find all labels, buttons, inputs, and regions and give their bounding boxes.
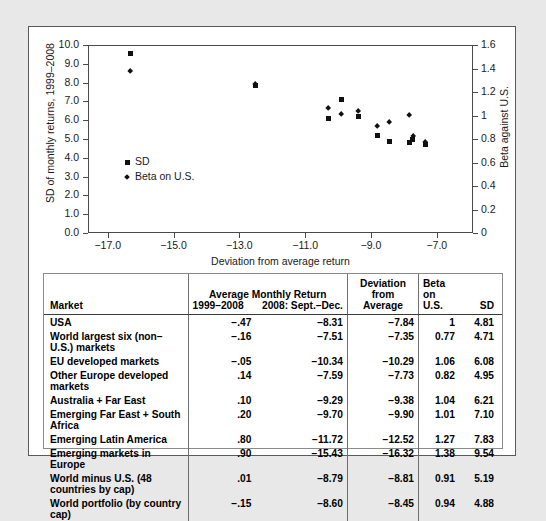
x-tick: [239, 233, 240, 238]
table-row: World minus U.S. (48 countries by cap).0…: [44, 471, 502, 496]
y-left-tick-label: 7.0: [29, 94, 79, 106]
deviation-line1: Deviation: [352, 278, 414, 289]
data-point-sd: [387, 139, 392, 144]
cell-sd: 7.10: [459, 407, 502, 432]
avg-group-title: Average Monthly Return: [193, 289, 343, 300]
cell-avg2: −9.29: [255, 393, 347, 407]
y-right-tick-label: 1.4: [481, 62, 521, 74]
cell-dev: −10.29: [347, 354, 418, 368]
y-right-tick-label: 0.8: [481, 132, 521, 144]
y-left-tick-label: 8.0: [29, 76, 79, 88]
y-right-tick: [473, 210, 478, 211]
cell-sd: 6.08: [459, 354, 502, 368]
beta-line2: U.S.: [423, 300, 455, 311]
x-tick: [305, 233, 306, 238]
y-left-tick-label: 4.0: [29, 151, 79, 163]
plot-frame-bottom: [88, 232, 473, 233]
y-right-tick: [473, 233, 478, 234]
table-row: Emerging Latin America.80−11.72−12.521.2…: [44, 432, 502, 446]
cell-market: EU developed markets: [44, 354, 188, 368]
cell-beta: 0.94: [418, 496, 458, 521]
y-left-tick: [83, 195, 88, 196]
y-left-tick: [83, 83, 88, 84]
y-right-tick-label: 1: [481, 109, 521, 121]
cell-sd: 5.19: [459, 471, 502, 496]
cell-market: Australia + Far East: [44, 393, 188, 407]
y-left-tick-label: 2.0: [29, 188, 79, 200]
table-row: Emerging markets in Europe.90−15.43−16.3…: [44, 446, 502, 471]
cell-dev: −9.90: [347, 407, 418, 432]
cell-sd: 4.81: [459, 315, 502, 330]
data-point-beta: [386, 119, 392, 125]
table-row: World largest six (non–U.S.) markets−.16…: [44, 329, 502, 354]
beta-line1: Beta on: [423, 278, 455, 300]
cell-sd: 4.71: [459, 329, 502, 354]
y-left-tick: [83, 101, 88, 102]
scatter-chart: SD of monthly returns, 1999–2008 Beta ag…: [29, 27, 517, 259]
y-left-tick: [83, 45, 88, 46]
y-left-tick-label: 6.0: [29, 113, 79, 125]
x-tick: [437, 233, 438, 238]
avg-sub-2008-sept-dec: 2008: Sept.–Dec.: [262, 300, 343, 311]
plot-frame-top: [88, 45, 473, 46]
square-marker-icon: [125, 160, 130, 165]
y-right-tick: [473, 116, 478, 117]
cell-market: Emerging markets in Europe: [44, 446, 188, 471]
y-right-tick: [473, 139, 478, 140]
cell-market: World portfolio (by country cap): [44, 496, 188, 521]
cell-avg2: −8.60: [255, 496, 347, 521]
cell-avg2: −8.79: [255, 471, 347, 496]
data-point-sd: [339, 97, 344, 102]
cell-avg1: −.47: [188, 315, 255, 330]
cell-dev: −12.52: [347, 432, 418, 446]
column-header-beta-on-us: Beta on U.S.: [418, 274, 458, 315]
cell-market: World minus U.S. (48 countries by cap): [44, 471, 188, 496]
y-right-tick-label: 0.4: [481, 179, 521, 191]
cell-market: Other Europe developed markets: [44, 368, 188, 393]
cell-beta: 1.01: [418, 407, 458, 432]
figure-panel: SD of monthly returns, 1999–2008 Beta ag…: [28, 26, 516, 456]
cell-beta: 0.82: [418, 368, 458, 393]
cell-avg1: .14: [188, 368, 255, 393]
data-point-sd: [326, 116, 331, 121]
data-point-sd: [375, 133, 380, 138]
column-header-average-monthly-return: Average Monthly Return 1999–2008 2008: S…: [188, 274, 347, 315]
y-right-tick: [473, 69, 478, 70]
legend-label-beta: Beta on U.S.: [135, 170, 195, 182]
x-tick: [174, 233, 175, 238]
cell-avg1: .01: [188, 471, 255, 496]
y-right-tick: [473, 163, 478, 164]
cell-beta: 1.04: [418, 393, 458, 407]
cell-market: World largest six (non–U.S.) markets: [44, 329, 188, 354]
y-left-tick-label: 3.0: [29, 170, 79, 182]
y-right-tick-label: 0.6: [481, 156, 521, 168]
y-left-tick: [83, 177, 88, 178]
cell-avg2: −10.34: [255, 354, 347, 368]
cell-dev: −7.84: [347, 315, 418, 330]
cell-beta: 1.06: [418, 354, 458, 368]
market-statistics-table: Market Average Monthly Return 1999–2008 …: [43, 273, 503, 449]
cell-dev: −7.73: [347, 368, 418, 393]
x-axis-title: Deviation from average return: [88, 255, 473, 267]
data-point-beta: [406, 112, 412, 118]
y-left-tick: [83, 64, 88, 65]
cell-avg1: .90: [188, 446, 255, 471]
cell-beta: 1: [418, 315, 458, 330]
y-left-tick-label: 1.0: [29, 207, 79, 219]
x-tick-label: −17.0: [83, 239, 133, 251]
x-tick-label: −9.0: [346, 239, 396, 251]
y-left-tick: [83, 139, 88, 140]
x-tick-label: −11.0: [280, 239, 330, 251]
cell-avg2: −15.43: [255, 446, 347, 471]
table-body: USA−.47−8.31−7.8414.81World largest six …: [44, 315, 502, 521]
y-right-tick-label: 0.2: [481, 203, 521, 215]
x-tick-label: −15.0: [149, 239, 199, 251]
cell-avg2: −7.59: [255, 368, 347, 393]
cell-market: USA: [44, 315, 188, 330]
data-point-sd: [128, 51, 133, 56]
cell-dev: −8.81: [347, 471, 418, 496]
data-point-beta: [127, 68, 133, 74]
data-point-beta: [325, 105, 331, 111]
cell-avg2: −8.31: [255, 315, 347, 330]
cell-avg2: −11.72: [255, 432, 347, 446]
